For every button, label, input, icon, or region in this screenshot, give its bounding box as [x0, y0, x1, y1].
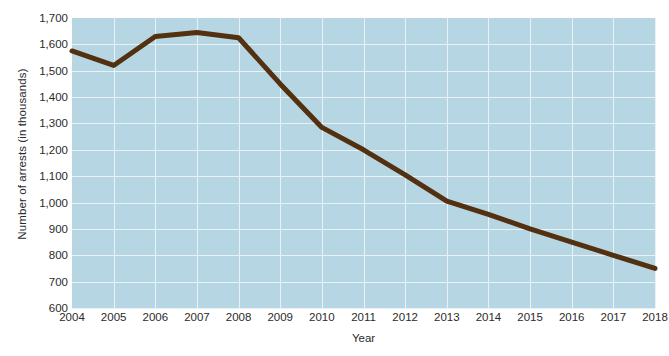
- gridline-horizontal: [72, 308, 655, 309]
- x-axis-tick-label: 2015: [508, 311, 552, 323]
- x-axis-tick-label: 2006: [133, 311, 177, 323]
- x-axis-title: Year: [72, 332, 655, 344]
- x-axis-tick-label: 2004: [50, 311, 94, 323]
- x-axis-tick-label: 2013: [425, 311, 469, 323]
- plot-area: [72, 18, 655, 308]
- x-axis-tick-label: 2009: [258, 311, 302, 323]
- y-axis-tick-label: 1,300: [4, 117, 68, 129]
- y-axis-tick-label: 1,400: [4, 91, 68, 103]
- x-axis-tick-label: 2008: [217, 311, 261, 323]
- x-axis-tick-label: 2012: [383, 311, 427, 323]
- x-axis-tick-label: 2007: [175, 311, 219, 323]
- y-axis-tick-label: 1,600: [4, 38, 68, 50]
- x-axis-tick-label: 2011: [342, 311, 386, 323]
- x-axis-tick-label: 2016: [550, 311, 594, 323]
- x-axis-tick-label: 2010: [300, 311, 344, 323]
- y-axis-tick-label: 800: [4, 249, 68, 261]
- y-axis-tick-label: 1,000: [4, 197, 68, 209]
- series-line-number-of-arrests: [72, 33, 655, 269]
- y-axis-tick-label: 1,200: [4, 144, 68, 156]
- y-axis-tick-label: 900: [4, 223, 68, 235]
- line-chart: Number of arrests (in thousands) 1,7001,…: [0, 0, 669, 356]
- y-axis-tick-label: 1,500: [4, 65, 68, 77]
- y-axis-tick-labels: 1,7001,6001,5001,4001,3001,2001,1001,000…: [0, 18, 68, 308]
- y-axis-tick-label: 1,700: [4, 12, 68, 24]
- x-axis-tick-labels: 2004200520062007200820092010201120122013…: [72, 311, 655, 329]
- y-axis-tick-label: 700: [4, 276, 68, 288]
- series-line-layer: [72, 18, 655, 308]
- x-axis-tick-label: 2005: [92, 311, 136, 323]
- x-axis-tick-label: 2017: [591, 311, 635, 323]
- gridline-vertical: [655, 18, 656, 308]
- x-axis-tick-label: 2014: [466, 311, 510, 323]
- y-axis-tick-label: 1,100: [4, 170, 68, 182]
- x-axis-tick-label: 2018: [633, 311, 669, 323]
